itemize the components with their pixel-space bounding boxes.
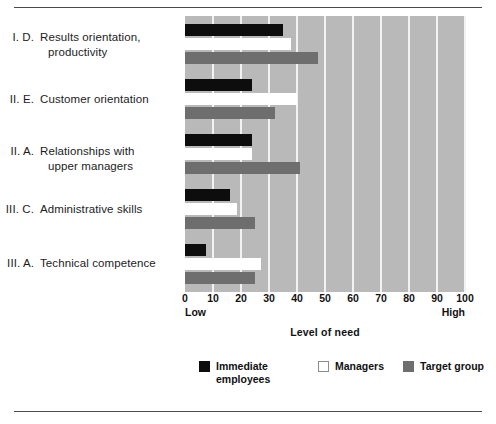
- chart-legend: Immediate employeesManagersTarget group: [185, 360, 485, 400]
- category-label-text: Administrative skills: [40, 202, 142, 217]
- legend-swatch-black: [199, 361, 210, 372]
- bar: [185, 24, 283, 36]
- legend-swatch-white: [318, 361, 329, 372]
- bar: [185, 38, 291, 50]
- legend-item: Managers: [318, 360, 384, 373]
- legend-item: Target group: [403, 360, 484, 373]
- bar: [185, 162, 300, 174]
- category-axis-labels: I. D.Results orientation,productivityII.…: [0, 16, 180, 292]
- bar: [185, 189, 230, 201]
- bar: [185, 258, 261, 270]
- legend-label: Target group: [420, 360, 484, 373]
- x-tick-label: 30: [263, 292, 275, 304]
- x-tick-label: 100: [456, 292, 474, 304]
- plot-area: [185, 16, 465, 292]
- category-label-text: Technical competence: [40, 256, 156, 271]
- category-label: III. A.Technical competence: [0, 256, 178, 271]
- bar: [185, 134, 252, 146]
- category-label: II. E.Customer orientation: [0, 92, 178, 107]
- category-label-text-line2: productivity: [40, 45, 140, 60]
- bar-group: [185, 134, 465, 174]
- x-axis-low-label: Low: [185, 306, 206, 318]
- category-label-number: II. E.: [0, 92, 40, 107]
- chart-figure: I. D.Results orientation,productivityII.…: [0, 0, 496, 424]
- category-label: I. D.Results orientation,productivity: [0, 30, 178, 59]
- x-tick-label: 20: [235, 292, 247, 304]
- category-label-text: Results orientation,productivity: [40, 30, 140, 59]
- category-label-number: II. A.: [0, 144, 40, 159]
- bar-groups: [185, 16, 465, 292]
- bar-group: [185, 24, 465, 64]
- top-rule: [14, 7, 482, 8]
- legend-item: Immediate employees: [199, 360, 270, 386]
- bottom-rule: [14, 411, 482, 412]
- x-tick-label: 40: [291, 292, 303, 304]
- legend-swatch-gray: [403, 361, 414, 372]
- x-tick-label: 70: [375, 292, 387, 304]
- bar: [185, 203, 237, 215]
- bar: [185, 79, 252, 91]
- bar: [185, 217, 255, 229]
- bar-group: [185, 79, 465, 119]
- bar: [185, 52, 318, 64]
- x-axis-title: Level of need: [185, 326, 465, 338]
- x-tick-label: 60: [347, 292, 359, 304]
- x-axis-endpoint-labels: Low High: [185, 306, 465, 322]
- bar: [185, 107, 275, 119]
- bar: [185, 272, 255, 284]
- category-label-number: III. C.: [0, 202, 40, 217]
- bar: [185, 244, 206, 256]
- category-label-text-line2: upper managers: [40, 159, 135, 174]
- category-label-number: III. A.: [0, 256, 40, 271]
- x-tick-label: 50: [319, 292, 331, 304]
- x-tick-label: 90: [431, 292, 443, 304]
- x-tick-label: 10: [207, 292, 219, 304]
- x-tick-label: 80: [403, 292, 415, 304]
- category-label: II. A.Relationships withupper managers: [0, 144, 178, 173]
- bar: [185, 93, 297, 105]
- bar-group: [185, 189, 465, 229]
- bar-group: [185, 244, 465, 284]
- legend-label: Immediate employees: [216, 360, 270, 386]
- category-label-text: Customer orientation: [40, 92, 149, 107]
- x-tick-label: 0: [182, 292, 188, 304]
- category-label-text: Relationships withupper managers: [40, 144, 135, 173]
- bar: [185, 148, 252, 160]
- legend-label: Managers: [335, 360, 384, 373]
- x-axis-high-label: High: [442, 306, 465, 318]
- category-label-number: I. D.: [0, 30, 40, 45]
- category-label: III. C.Administrative skills: [0, 202, 178, 217]
